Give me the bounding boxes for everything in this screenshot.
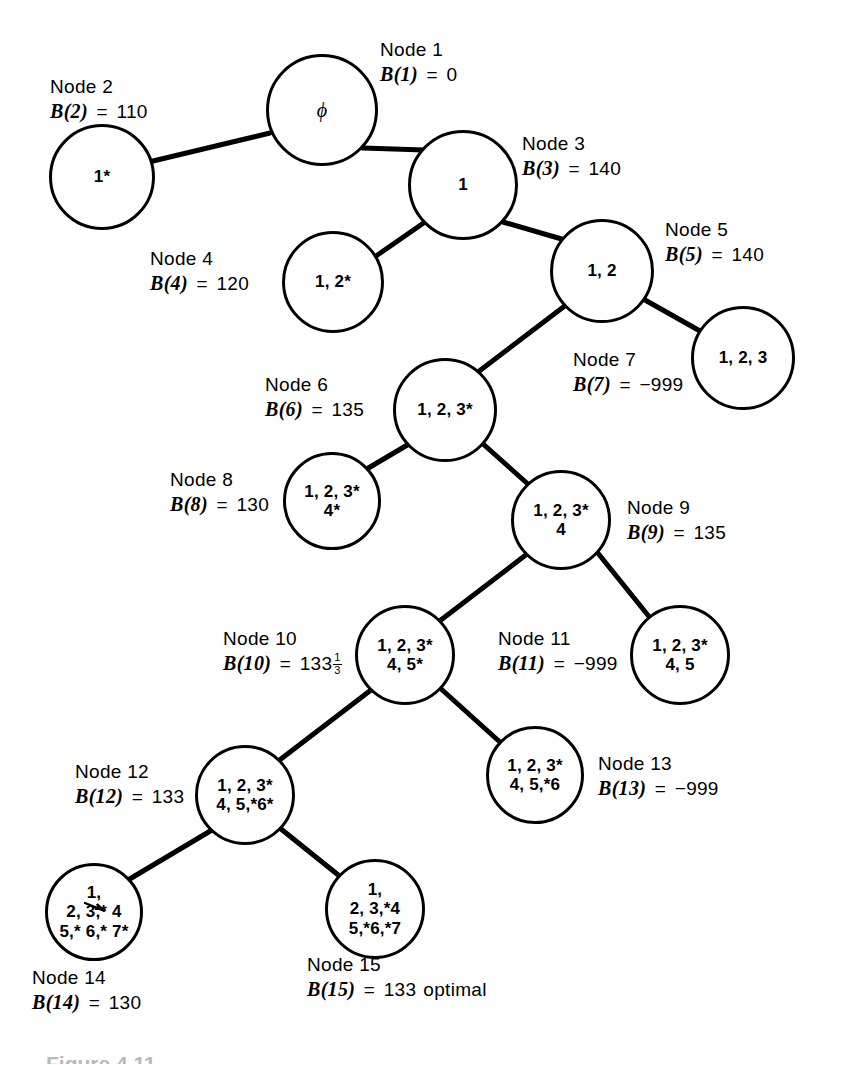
node-number: Node 9 xyxy=(627,496,726,520)
node-number: Node 4 xyxy=(150,247,249,271)
node-label-14: Node 14B(14) = 130 xyxy=(32,966,141,1016)
bound-function-label: B(12) xyxy=(75,785,123,807)
bound-function-label: B(8) xyxy=(170,493,208,515)
bound-value: 133 xyxy=(152,786,185,807)
node-label-4: Node 4B(4) = 120 xyxy=(150,247,249,297)
tree-edge-n1-n2 xyxy=(153,133,270,161)
tree-edge-n12-n14 xyxy=(128,830,212,880)
node-label-2: Node 2B(2) = 110 xyxy=(50,75,148,125)
bound-function-label: B(13) xyxy=(598,777,646,799)
equals-sign: = xyxy=(88,101,117,122)
tree-node-4[interactable]: 1, 2* xyxy=(282,231,384,333)
node-content-line: 1, 2* xyxy=(315,272,351,291)
node-content-line: 1 xyxy=(458,175,468,194)
node-number: Node 1 xyxy=(380,38,457,62)
node-content-line: 1, 2, 3* xyxy=(507,756,562,775)
tree-edge-n6-n9 xyxy=(482,443,529,485)
node-bound: B(14) = 130 xyxy=(32,990,141,1016)
node-content: 1,2, 3,* 45,* 6,* 7* xyxy=(55,883,132,940)
node-content: 1, 2, 3*4, 5* xyxy=(373,636,436,674)
node-content: 1,2, 3,*45,*6,*7 xyxy=(345,880,405,937)
tree-edge-n1-n3 xyxy=(363,148,424,150)
bound-function-label: B(7) xyxy=(573,373,611,395)
tree-edge-n12-n15 xyxy=(281,829,342,878)
tree-node-9[interactable]: 1, 2, 3*4 xyxy=(511,470,611,570)
tree-node-8[interactable]: 1, 2, 3*4* xyxy=(283,452,381,550)
bound-function-label: B(2) xyxy=(50,100,88,122)
node-bound: B(3) = 140 xyxy=(522,156,621,182)
node-content-line: 4* xyxy=(304,501,359,520)
fraction-denominator: 3 xyxy=(333,665,341,676)
bound-value: 130 xyxy=(109,992,142,1013)
node-content: 1, 2, 3* xyxy=(413,400,476,419)
node-number: Node 11 xyxy=(498,627,618,651)
tree-node-1[interactable]: ϕ xyxy=(266,54,378,166)
bound-value: 0 xyxy=(446,64,457,85)
tree-edge-n10-n13 xyxy=(440,688,501,743)
equals-sign: = xyxy=(545,653,574,674)
node-content-line: 2, 3,* 4 xyxy=(59,902,128,921)
node-content-line: 1, 2, 3* xyxy=(304,482,359,501)
node-number: Node 12 xyxy=(75,760,184,784)
node-content: 1* xyxy=(90,167,114,186)
node-label-13: Node 13B(13) = −999 xyxy=(598,752,719,802)
tree-node-7[interactable]: 1, 2, 3 xyxy=(691,306,795,410)
tree-node-6[interactable]: 1, 2, 3* xyxy=(393,358,497,462)
node-content: 1, 2, 3 xyxy=(715,348,772,367)
tree-node-14[interactable]: 1,2, 3,* 45,* 6,* 7* xyxy=(45,863,143,961)
tree-node-10[interactable]: 1, 2, 3*4, 5* xyxy=(355,605,455,705)
tree-node-13[interactable]: 1, 2, 3*4, 5,*6 xyxy=(486,726,584,824)
node-content-line: 5,*6,*7 xyxy=(349,919,401,938)
node-number: Node 13 xyxy=(598,752,719,776)
node-bound: B(6) = 135 xyxy=(265,397,364,423)
bound-function-label: B(14) xyxy=(32,991,80,1013)
bound-value: 110 xyxy=(116,101,147,122)
equals-sign: = xyxy=(123,786,152,807)
tree-node-15[interactable]: 1,2, 3,*45,*6,*7 xyxy=(325,859,425,959)
tree-node-11[interactable]: 1, 2, 3*4, 5 xyxy=(630,605,730,705)
node-content: 1, 2, 3*4, 5,*6 xyxy=(503,756,566,794)
bound-function-label: B(4) xyxy=(150,272,188,294)
bound-value: 135 xyxy=(331,399,364,420)
node-bound: B(8) = 130 xyxy=(170,492,269,518)
equals-sign: = xyxy=(418,64,447,85)
tree-node-2[interactable]: 1* xyxy=(49,124,155,230)
node-content: 1, 2, 3*4, 5 xyxy=(648,636,711,674)
equals-sign: = xyxy=(703,244,732,265)
node-content-line: 2, 3,*4 xyxy=(349,899,401,918)
node-label-3: Node 3B(3) = 140 xyxy=(522,132,621,182)
bound-value: −999 xyxy=(675,778,719,799)
tree-edge-n3-n4 xyxy=(376,222,425,256)
tree-node-12[interactable]: 1, 2, 3*4, 5,*6* xyxy=(195,745,295,845)
bound-function-label: B(15) xyxy=(307,978,355,1000)
figure-caption: Figure 4.11 xyxy=(46,1052,156,1064)
node-content-line: 1, 2, 3* xyxy=(533,501,588,520)
bound-function-label: B(11) xyxy=(498,652,545,674)
tree-edge-n5-n6 xyxy=(478,305,566,372)
node-content-line: 5,* 6,* 7* xyxy=(59,922,128,941)
node-bound: B(11) = −999 xyxy=(498,651,618,677)
fraction-numerator: 1 xyxy=(333,652,341,664)
node-content-line: 1, xyxy=(349,880,401,899)
bound-function-label: B(5) xyxy=(665,243,703,265)
node-number: Node 15 xyxy=(307,953,487,977)
tree-node-3[interactable]: 1 xyxy=(408,130,518,240)
tree-node-5[interactable]: 1, 2 xyxy=(550,219,654,323)
node-content-line: 1* xyxy=(94,167,110,186)
node-bound: B(13) = −999 xyxy=(598,776,719,802)
equals-sign: = xyxy=(611,374,640,395)
equals-sign: = xyxy=(188,273,217,294)
equals-sign: = xyxy=(355,979,384,1000)
equals-sign: = xyxy=(208,494,237,515)
node-label-7: Node 7B(7) = −999 xyxy=(573,348,683,398)
node-content: 1, 2, 3*4* xyxy=(300,482,363,520)
bound-suffix: optimal xyxy=(416,979,486,1000)
bound-function-label: B(3) xyxy=(522,157,560,179)
bound-value: −999 xyxy=(574,653,618,674)
node-content: 1 xyxy=(454,175,472,194)
bound-value: 133 xyxy=(300,653,333,674)
node-content-line: 4, 5 xyxy=(652,655,707,674)
node-number: Node 2 xyxy=(50,75,148,99)
bound-function-label: B(9) xyxy=(627,521,665,543)
figure-canvas: ϕ1*11, 2*1, 21, 2, 3*1, 2, 31, 2, 3*4*1,… xyxy=(0,0,843,1065)
